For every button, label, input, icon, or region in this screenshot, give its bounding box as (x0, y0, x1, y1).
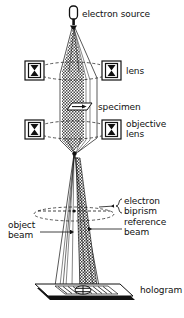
hologram-label: hologram (140, 285, 182, 295)
figure-canvas: electron source lens specimen (0, 0, 184, 318)
electron-source-label: electron source (82, 9, 151, 19)
object-beam-label-line2: beam (8, 230, 33, 240)
beam-envelopes (55, 28, 99, 286)
reference-beam-region (76, 158, 97, 286)
electron-biprism-brace (116, 199, 122, 213)
condenser-lens-right-icon (102, 61, 121, 80)
electron-source-icon (70, 6, 78, 30)
objective-lens-right-icon (102, 120, 121, 139)
objective-lens-left-icon (25, 120, 44, 139)
reference-beam-label-line1: reference (124, 217, 167, 227)
condenser-lens-left-icon (25, 61, 44, 80)
electron-biprism-label-line1: electron (124, 196, 160, 206)
hologram-fringe-distortion (75, 286, 91, 294)
electron-biprism-label-line2: biprism (124, 206, 157, 216)
biprism-leader (99, 206, 114, 207)
object-beam-label-line1: object (8, 220, 36, 230)
objective-lens-label-line2: lens (126, 129, 144, 139)
biprism-wire (72, 209, 75, 212)
objective-lens-label-line1: objective (126, 119, 167, 129)
specimen-label: specimen (98, 102, 141, 112)
crossover-point (72, 151, 76, 155)
specimen-icon (67, 103, 92, 110)
electron-holography-diagram: electron source lens specimen (0, 0, 184, 318)
hologram-plate (35, 284, 135, 300)
condenser-lens-label: lens (126, 66, 144, 76)
reference-beam-label-line2: beam (124, 227, 149, 237)
